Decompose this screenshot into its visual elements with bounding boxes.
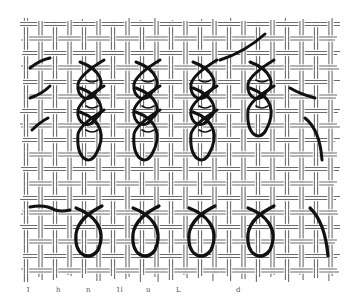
weave-crossing <box>38 35 44 41</box>
weave-crossing <box>183 267 189 273</box>
weave-crossing <box>67 35 73 41</box>
weave-crossing <box>153 166 159 172</box>
weave-crossing <box>81 224 87 230</box>
weave-crossing <box>52 79 58 85</box>
weave-crossing <box>255 137 261 143</box>
weave-crossing <box>67 64 73 70</box>
weave-crossing <box>168 152 174 158</box>
weave-crossing <box>183 93 189 99</box>
weave-crossing <box>110 224 116 230</box>
weave-crossing <box>81 36 87 42</box>
weave-crossing <box>284 123 290 129</box>
weave-crossing <box>23 268 29 274</box>
tie-down-stitch <box>86 130 98 132</box>
weave-crossing <box>96 267 102 273</box>
weave-crossing <box>38 64 44 70</box>
weave-crossing <box>66 253 72 259</box>
weave-crossing <box>110 65 116 71</box>
weave-crossing <box>241 122 247 128</box>
weave-crossing <box>299 64 305 70</box>
weave-crossing <box>37 224 43 230</box>
weave-crossing <box>23 137 29 143</box>
weave-crossing <box>241 35 247 41</box>
weave-crossing <box>37 166 43 172</box>
weave-crossing <box>125 238 131 244</box>
weave-crossing <box>110 108 116 114</box>
weave-crossing <box>270 267 276 273</box>
weave-crossing <box>284 137 290 143</box>
weave-crossing <box>313 108 319 114</box>
weave-crossing <box>38 151 44 157</box>
weave-crossing <box>37 50 43 56</box>
weave-crossing <box>255 108 261 114</box>
weave-crossing <box>328 35 334 41</box>
margin-label: L <box>176 286 181 294</box>
weave-crossing <box>313 152 319 158</box>
weave-crossing <box>52 268 58 274</box>
weave-crossing <box>226 123 232 129</box>
weave-crossing <box>182 224 188 230</box>
weave-crossing <box>110 123 116 129</box>
weave-crossing <box>153 253 159 259</box>
weave-crossing <box>284 239 290 245</box>
weave-crossing <box>139 239 145 245</box>
weave-crossing <box>67 93 73 99</box>
weave-crossing <box>168 166 174 172</box>
weave-crossing <box>183 151 189 157</box>
weave-crossing <box>168 195 174 201</box>
weave-crossing <box>52 137 58 143</box>
weave-crossing <box>255 181 261 187</box>
margin-label: 1l <box>116 286 123 294</box>
weave-crossing <box>124 108 130 114</box>
weave-crossing <box>328 209 334 215</box>
weave-crossing <box>23 79 29 85</box>
weave-crossing <box>226 166 232 172</box>
margin-labels: 1hn1luLd <box>26 286 241 294</box>
weave-crossing <box>284 166 290 172</box>
weave-crossing <box>125 209 131 215</box>
weave-crossing <box>284 94 290 100</box>
weave-crossing <box>327 195 333 201</box>
weave-crossing <box>153 195 159 201</box>
weave-crossing <box>52 253 58 259</box>
weave-crossing <box>52 152 58 158</box>
weave-crossing <box>67 180 73 186</box>
weave-crossing <box>168 253 174 259</box>
weave-crossing <box>67 151 73 157</box>
weave-crossing <box>168 239 174 245</box>
weave-crossing <box>270 64 276 70</box>
weave-crossing <box>125 93 131 99</box>
weave-crossing <box>37 21 43 27</box>
weave-crossing <box>37 108 43 114</box>
weave-crossing <box>52 239 58 245</box>
weave-crossing <box>270 151 276 157</box>
weave-crossing <box>269 166 275 172</box>
weave-crossing <box>197 50 203 56</box>
weave-crossing <box>124 195 130 201</box>
weave-crossing <box>183 35 189 41</box>
weave-crossing <box>255 224 261 230</box>
weave-crossing <box>81 21 87 27</box>
weave-crossing <box>298 137 304 143</box>
weave-crossing <box>110 268 116 274</box>
weave-crossing <box>124 21 130 27</box>
weave-crossing <box>255 123 261 129</box>
weave-crossing <box>153 21 159 27</box>
weave-crossing <box>168 21 174 27</box>
weave-crossing <box>255 21 261 27</box>
weave-crossing <box>110 210 116 216</box>
weave-crossing <box>328 151 334 157</box>
weave-crossing <box>298 21 304 27</box>
weave-crossing <box>154 267 160 273</box>
weave-crossing <box>270 209 276 215</box>
weave-crossing <box>226 21 232 27</box>
weave-crossing <box>313 181 319 187</box>
weave-crossing <box>299 122 305 128</box>
weave-crossing <box>313 239 319 245</box>
weave-crossing <box>255 166 261 172</box>
weave-crossing <box>212 151 218 157</box>
weave-crossing <box>81 239 87 245</box>
weave-crossing <box>52 50 58 56</box>
weave-crossing <box>313 79 319 85</box>
weave-crossing <box>125 151 131 157</box>
